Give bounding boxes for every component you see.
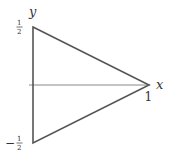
triangle-diagram: y x 1 2 − 1 2 1 bbox=[0, 0, 171, 159]
tick-label-neg-half: − 1 2 bbox=[5, 135, 23, 152]
tick-neg-half-sign: − bbox=[5, 136, 15, 150]
tick-label-half: 1 2 bbox=[17, 19, 23, 36]
tick-half-numerator: 1 bbox=[17, 19, 21, 27]
tick-neg-half-numerator: 1 bbox=[17, 135, 21, 143]
y-axis-label: y bbox=[28, 4, 37, 19]
tick-half-denominator: 2 bbox=[17, 28, 21, 36]
tick-label-one: 1 bbox=[145, 90, 153, 104]
x-axis-label: x bbox=[156, 77, 164, 92]
tick-neg-half-denominator: 2 bbox=[17, 144, 21, 152]
